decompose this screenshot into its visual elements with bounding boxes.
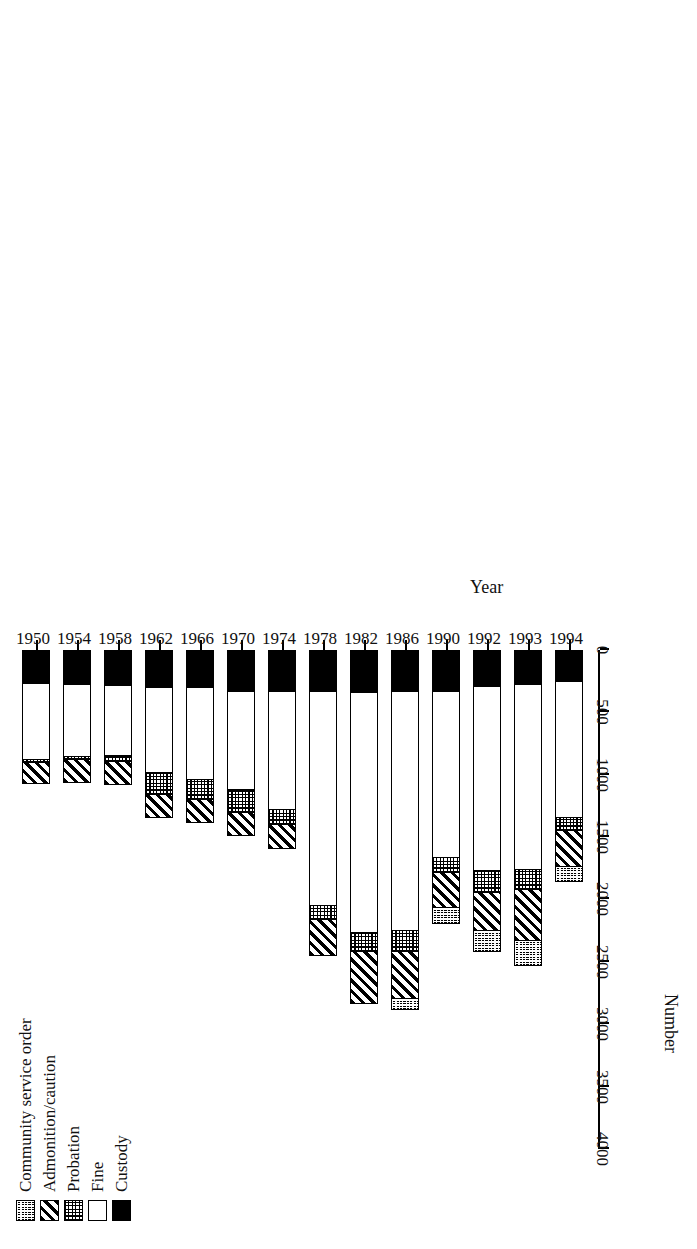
bar-segment-fine: [473, 686, 501, 871]
bar-segment-probation: [350, 932, 378, 953]
bar-segment-admonition-caution: [514, 889, 542, 941]
bar-1993: [514, 650, 542, 1249]
bar-segment-probation: [309, 904, 337, 920]
value-axis-tick-label: 4000: [592, 1132, 612, 1166]
bar-segment-probation: [268, 808, 296, 825]
bar-1954: [63, 650, 91, 1249]
bar-1992: [473, 650, 501, 1249]
category-axis-label-1950: 1950: [16, 629, 50, 649]
bar-segment-custody: [514, 650, 542, 684]
bar-segment-probation: [514, 869, 542, 890]
bar-segment-custody: [227, 650, 255, 691]
bar-1978: [309, 650, 337, 1249]
category-axis-label-1982: 1982: [344, 629, 378, 649]
bar-segment-admonition-caution: [309, 919, 337, 956]
bar-1974: [268, 650, 296, 1249]
value-axis-tick-label: 500: [592, 700, 612, 726]
bar-1950: [22, 650, 50, 1249]
bar-segment-custody: [104, 650, 132, 685]
value-axis-tick-label: 3000: [592, 1007, 612, 1041]
bar-segment-admonition-caution: [268, 824, 296, 849]
bar-segment-admonition-caution: [186, 798, 214, 822]
value-axis-tick-label: 1500: [592, 820, 612, 854]
bar-1966: [186, 650, 214, 1249]
bar-segment-admonition-caution: [22, 762, 50, 784]
bar-segment-custody: [473, 650, 501, 686]
bar-segment-probation: [432, 857, 460, 873]
bar-segment-admonition-caution: [473, 892, 501, 932]
bar-segment-fine: [268, 691, 296, 810]
category-axis-label-1966: 1966: [180, 629, 214, 649]
bar-segment-fine: [227, 691, 255, 791]
category-axis-label-1992: 1992: [467, 629, 501, 649]
bar-1994: [555, 650, 583, 1249]
chart-figure: Community service order Admonition/cauti…: [0, 0, 697, 1249]
bar-segment-fine: [391, 691, 419, 931]
bar-segment-probation: [473, 870, 501, 894]
bar-segment-community-service-order: [555, 866, 583, 882]
bar-segment-fine: [186, 687, 214, 779]
bar-segment-admonition-caution: [555, 830, 583, 867]
category-axis-label-1962: 1962: [139, 629, 173, 649]
bar-segment-custody: [350, 650, 378, 692]
bar-segment-probation: [391, 929, 419, 951]
value-axis-tick-label: 3500: [592, 1070, 612, 1104]
bar-segment-fine: [145, 687, 173, 773]
category-axis-label-1978: 1978: [303, 629, 337, 649]
bar-segment-custody: [22, 650, 50, 683]
bar-segment-community-service-order: [473, 931, 501, 953]
bar-segment-admonition-caution: [350, 951, 378, 1003]
bar-segment-admonition-caution: [145, 793, 173, 818]
bar-segment-community-service-order: [432, 907, 460, 923]
category-axis-title: Year: [470, 577, 503, 598]
bar-segment-fine: [432, 691, 460, 858]
bar-segment-fine: [514, 684, 542, 871]
bar-1970: [227, 650, 255, 1249]
category-axis-label-1954: 1954: [57, 629, 91, 649]
bar-segment-community-service-order: [391, 999, 419, 1011]
bar-segment-admonition-caution: [432, 872, 460, 909]
bar-segment-fine: [309, 691, 337, 906]
bar-segment-custody: [432, 650, 460, 691]
value-axis-tick-label: 0: [592, 646, 612, 655]
bar-segment-fine: [104, 685, 132, 756]
category-axis-label-1970: 1970: [221, 629, 255, 649]
category-axis-label-1993: 1993: [508, 629, 542, 649]
bar-1962: [145, 650, 173, 1249]
bar-segment-custody: [555, 650, 583, 681]
category-axis-label-1958: 1958: [98, 629, 132, 649]
bar-segment-admonition-caution: [63, 759, 91, 783]
bar-segment-fine: [63, 684, 91, 758]
bar-segment-probation: [186, 778, 214, 799]
bar-segment-fine: [350, 692, 378, 933]
bar-segment-admonition-caution: [104, 760, 132, 784]
bar-1990: [432, 650, 460, 1249]
bar-segment-custody: [63, 650, 91, 684]
bar-segment-custody: [145, 650, 173, 687]
bar-segment-admonition-caution: [391, 951, 419, 1000]
bar-1958: [104, 650, 132, 1249]
bar-segment-probation: [555, 817, 583, 831]
value-axis-tick-label: 1000: [592, 758, 612, 792]
legend-label-fine: Fine: [89, 1162, 106, 1192]
bar-segment-custody: [391, 650, 419, 691]
bar-segment-community-service-order: [514, 940, 542, 966]
bar-segment-fine: [555, 681, 583, 818]
bar-segment-custody: [309, 650, 337, 691]
bar-1982: [350, 650, 378, 1249]
bar-segment-fine: [22, 683, 50, 760]
bar-segment-admonition-caution: [227, 811, 255, 835]
bar-segment-custody: [186, 650, 214, 687]
bar-1986: [391, 650, 419, 1249]
value-axis-title: Number: [660, 994, 681, 1053]
category-axis-label-1974: 1974: [262, 629, 296, 649]
value-axis-tick-label: 2500: [592, 945, 612, 979]
rotated-page-stage: Community service order Admonition/cauti…: [0, 0, 697, 1249]
category-axis-label-1994: 1994: [549, 629, 583, 649]
category-axis-label-1990: 1990: [426, 629, 460, 649]
bar-segment-probation: [227, 789, 255, 813]
category-axis-label-1986: 1986: [385, 629, 419, 649]
bar-segment-custody: [268, 650, 296, 691]
value-axis-tick-label: 2000: [592, 883, 612, 917]
bar-segment-probation: [145, 772, 173, 795]
